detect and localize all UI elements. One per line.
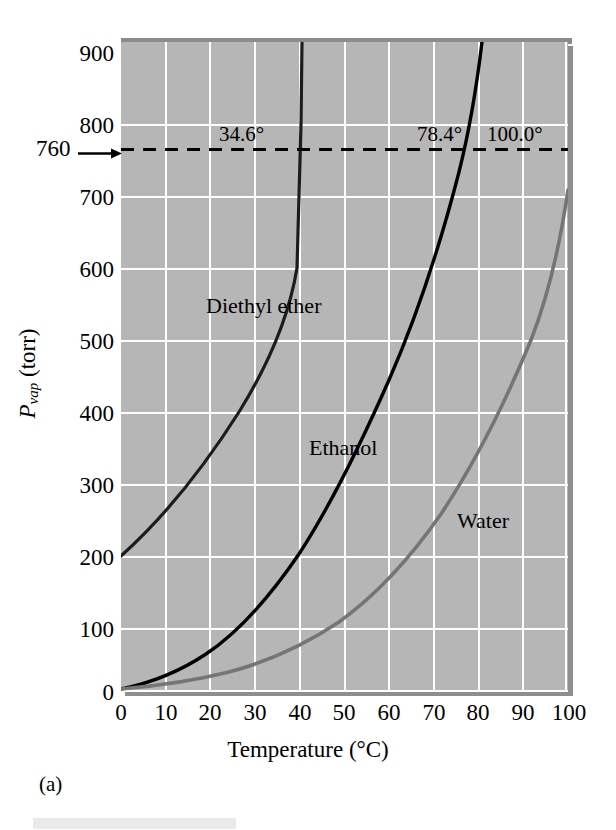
callout-diethyl-ether-bp: 34.6° bbox=[219, 122, 264, 147]
reference-line-760 bbox=[121, 148, 568, 151]
y-tick-label: 400 bbox=[54, 402, 114, 425]
y-axis-title-unit: (torr) bbox=[15, 329, 40, 383]
y-tick-label: 100 bbox=[54, 618, 114, 641]
x-tick-label: 100 bbox=[539, 700, 599, 726]
y-tick-label: 800 bbox=[54, 114, 114, 137]
y-tick-label: 600 bbox=[54, 258, 114, 281]
series-label-diethyl-ether: Diethyl ether bbox=[206, 293, 321, 319]
callout-ethanol-bp: 78.4° bbox=[417, 122, 462, 147]
y-tick-label: 900 bbox=[54, 42, 114, 65]
y-axis-title-symbol: P bbox=[15, 404, 40, 418]
y-axis-ticks: 900 800 700 600 500 400 300 200 100 0 bbox=[48, 0, 114, 700]
series-label-ethanol: Ethanol bbox=[309, 435, 377, 461]
series-label-water: Water bbox=[457, 508, 509, 534]
y-tick-label: 500 bbox=[54, 330, 114, 353]
vapor-pressure-figure: 760 900 800 700 600 500 400 300 200 100 … bbox=[0, 0, 616, 830]
y-tick-label: 300 bbox=[54, 474, 114, 497]
x-axis-title: Temperature (°C) bbox=[0, 737, 616, 763]
y-tick-label: 200 bbox=[54, 546, 114, 569]
y-tick-label: 700 bbox=[54, 186, 114, 209]
callout-water-bp: 100.0° bbox=[487, 122, 543, 147]
y-axis-title-subscript: vap bbox=[25, 383, 41, 405]
y-axis-title: Pvap (torr) bbox=[15, 284, 42, 464]
adjacent-figure-strip bbox=[33, 818, 236, 829]
panel-letter: (a) bbox=[39, 772, 62, 797]
